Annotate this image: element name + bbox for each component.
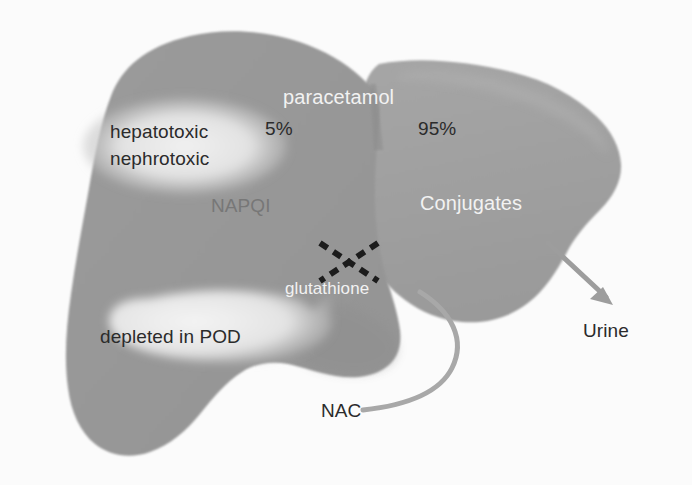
label-paracetamol: paracetamol [283, 86, 394, 108]
liver-metabolism-diagram: paracetamol 5% 95% hepatotoxic nephrotox… [0, 0, 692, 485]
label-depleted-in-pod: depleted in POD [100, 326, 241, 347]
label-nac: NAC [321, 400, 361, 421]
label-hepatotoxic: hepatotoxic [110, 121, 208, 142]
label-percent-minor: 5% [265, 118, 293, 139]
label-glutathione: glutathione [285, 279, 369, 298]
label-napqi: NAPQI [211, 195, 271, 216]
toxicity-callout-ellipse [83, 98, 287, 194]
label-urine: Urine [583, 320, 629, 341]
label-nephrotoxic: nephrotoxic [110, 148, 209, 169]
label-percent-major: 95% [418, 118, 456, 139]
label-conjugates: Conjugates [420, 192, 522, 214]
urine-arrow-icon [548, 243, 613, 305]
